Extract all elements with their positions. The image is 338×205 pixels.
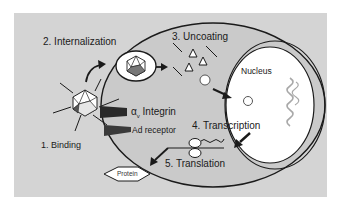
integrin-receptor <box>100 106 127 118</box>
step-translation-label: 5. Translation <box>165 159 225 169</box>
step-transcription-label: 4. Transcription <box>192 121 260 131</box>
nucleus-label: Nucleus <box>241 67 272 76</box>
integrin-name: Integrin <box>143 106 176 117</box>
internalized-virus-icon <box>127 56 145 76</box>
released-genome-icon <box>200 75 210 85</box>
integrin-label: αv Integrin <box>131 107 176 119</box>
ad-receptor-label: Ad receptor <box>132 126 176 135</box>
protein-label: Protein <box>117 171 138 178</box>
integrin-subscript: v <box>137 113 140 119</box>
viral-genome-icon <box>244 97 253 106</box>
step-internalization-label: 2. Internalization <box>43 37 116 47</box>
step-uncoating-label: 3. Uncoating <box>172 32 228 42</box>
step-binding-label: 1. Binding <box>41 141 81 150</box>
infection-diagram <box>0 0 338 205</box>
